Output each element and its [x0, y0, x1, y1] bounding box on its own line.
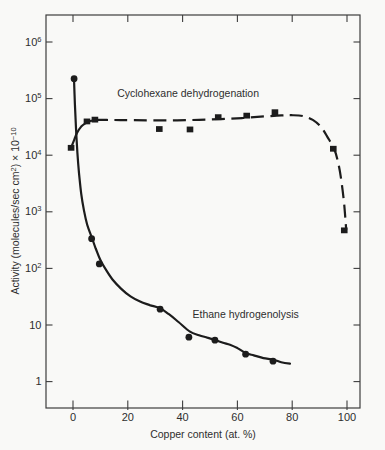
activity-vs-copper-content-chart: 020406080100106105104103102101Cyclohexan… [0, 0, 385, 450]
ethane-hydrogenolysis-curve-solid [74, 79, 290, 364]
y-tick-label: 102 [25, 261, 41, 274]
x-tick-label: 100 [338, 411, 356, 423]
cyclohexane-dehydrogenation-curve-solid [71, 120, 95, 148]
x-tick-label: 40 [176, 411, 188, 423]
chart-svg: 020406080100106105104103102101Cyclohexan… [0, 0, 385, 450]
cyclohexane-dehydrogenation-square-marker [243, 113, 250, 119]
cyclohexane-dehydrogenation-square-marker [341, 227, 348, 233]
cyclohexane-dehydrogenation-square-marker [272, 109, 279, 115]
x-tick-label: 20 [122, 411, 134, 423]
y-tick-label: 105 [25, 91, 41, 104]
x-axis-title: Copper content (at. %) [150, 428, 256, 440]
plot-frame [46, 15, 360, 408]
y-axis-title: Activity (molecules/sec cm2) × 10−10 [9, 127, 22, 294]
x-tick-label: 80 [286, 411, 298, 423]
ethane-hydrogenolysis-circle-marker [96, 261, 103, 268]
ethane-hydrogenolysis-circle-marker [157, 306, 164, 313]
ethane-hydrogenolysis-circle-marker [71, 75, 78, 82]
y-tick-label: 103 [25, 204, 41, 217]
ethane-hydrogenolysis-circle-marker [212, 337, 219, 344]
x-tick-label: 60 [231, 411, 243, 423]
cyclohexane-dehydrogenation-square-marker [330, 146, 337, 152]
y-tick-label: 10 [29, 319, 41, 331]
cyclohexane-dehydrogenation-square-marker [92, 117, 99, 123]
cyclohexane-dehydrogenation-square-marker [156, 126, 163, 132]
y-tick-label: 1 [35, 375, 41, 387]
cyclohexane-dehydrogenation-curve-dashed [95, 115, 346, 230]
ethane-hydrogenolysis-circle-marker [186, 334, 193, 341]
y-tick-label: 106 [25, 35, 41, 48]
x-tick-label: 0 [70, 411, 76, 423]
cyclohexane-dehydrogenation-square-marker [187, 127, 194, 133]
cyclohexane-dehydrogenation-square-marker [215, 114, 222, 120]
y-tick-label: 104 [25, 148, 41, 161]
cyclohexane-dehydrogenation-square-marker [84, 119, 91, 125]
cyclohexane-dehydrogenation-square-marker [68, 145, 75, 151]
ethane-hydrogenolysis-circle-marker [270, 358, 277, 365]
ethane-hydrogenolysis-label: Ethane hydrogenolysis [192, 308, 298, 320]
cyclohexane-dehydrogenation-label: Cyclohexane dehydrogenation [117, 87, 259, 99]
ethane-hydrogenolysis-circle-marker [242, 351, 249, 358]
scanned-figure-page: 020406080100106105104103102101Cyclohexan… [0, 0, 385, 450]
ethane-hydrogenolysis-circle-marker [88, 235, 95, 242]
